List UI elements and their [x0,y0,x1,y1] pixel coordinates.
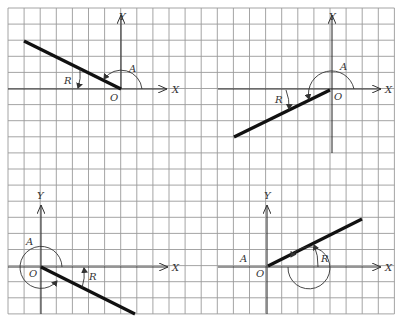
origin-label: O [29,268,37,279]
x-label: X [384,84,393,95]
grid [8,8,394,314]
x-label: X [384,262,393,273]
angle-a-label: A [25,236,33,247]
panel-top-right: Y X O A R [218,11,393,153]
origin-label: O [110,92,118,103]
reference-r-label: R [320,253,329,264]
origin-label: O [334,91,342,102]
y-label: Y [329,11,337,22]
angle-diagram: Y X O A R Y X O A R Y X O [0,0,399,321]
diagram-canvas: Y X O A R Y X O A R Y X O [0,0,399,321]
angle-a-label: A [239,253,247,264]
reference-r-arc [82,268,84,288]
origin-label: O [256,268,264,279]
angle-a-arc [308,71,354,99]
angle-a-label: A [339,61,347,72]
reference-r-label: R [274,94,283,105]
reference-r-label: R [88,271,97,282]
panel-top-left: Y X O A R [8,11,180,103]
y-label: Y [119,11,127,22]
x-label: X [171,262,180,273]
y-label: Y [37,190,45,201]
reference-r-arc [286,90,289,109]
angle-a-label: A [128,63,136,74]
reference-r-arc [78,69,80,88]
panel-bottom-left: Y X O A R [8,190,180,314]
reference-r-label: R [63,75,72,86]
panel-bottom-right: Y X O A R [218,190,393,314]
x-label: X [171,84,180,95]
y-label: Y [264,190,272,201]
angle-a-arc [104,70,142,89]
